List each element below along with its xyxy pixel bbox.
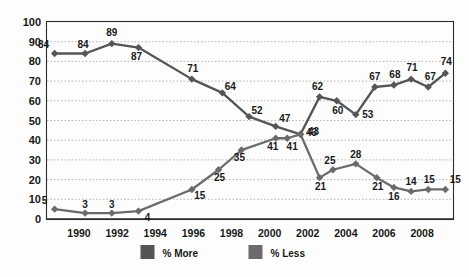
- x-tick-label-2006: 2006: [372, 227, 396, 239]
- x-tick-label-2002: 2002: [296, 227, 320, 239]
- legend-label-less: % Less: [271, 248, 306, 259]
- y-tick-label-100: 100: [23, 16, 41, 28]
- y-tick-label-10: 10: [29, 193, 41, 205]
- data-point-label: 14: [406, 176, 418, 187]
- legend-label-more: % More: [163, 248, 199, 259]
- data-point-label: 47: [279, 113, 291, 124]
- data-point-label: 60: [332, 105, 344, 116]
- data-point-label: 25: [214, 172, 226, 183]
- y-tick-label-50: 50: [29, 115, 41, 127]
- data-point-label: 62: [312, 81, 324, 92]
- data-point-label: 53: [362, 109, 374, 120]
- y-tick-label-20: 20: [29, 174, 41, 186]
- data-point-label: 41: [287, 141, 299, 152]
- data-point-label: 25: [324, 155, 336, 166]
- x-tick-label-2000: 2000: [258, 227, 282, 239]
- data-point-label: 28: [350, 149, 362, 160]
- data-point-label: 21: [372, 181, 384, 192]
- data-point-label: 35: [234, 152, 246, 163]
- data-point-label: 68: [389, 69, 401, 80]
- data-point-label: 89: [106, 27, 118, 38]
- y-tick-label-40: 40: [29, 134, 41, 146]
- y-tick-label-80: 80: [29, 55, 41, 67]
- y-tick-label-30: 30: [29, 154, 41, 166]
- data-point-label: 71: [407, 62, 419, 73]
- data-point-label: 84: [78, 39, 90, 50]
- data-point-label: 15: [450, 174, 462, 185]
- x-tick-label-2004: 2004: [334, 227, 358, 239]
- data-point-label: 41: [267, 141, 279, 152]
- x-tick-label-1990: 1990: [67, 227, 91, 239]
- data-point-label: 4: [145, 212, 151, 223]
- data-point-label: 15: [194, 190, 206, 201]
- data-point-label: 74: [441, 56, 453, 67]
- data-point-label: 15: [424, 174, 436, 185]
- data-point-label: 84: [38, 39, 50, 50]
- legend-swatch-more: [141, 245, 155, 259]
- x-tick-label-1992: 1992: [105, 227, 129, 239]
- y-tick-label-0: 0: [35, 213, 41, 225]
- data-point-label: 16: [388, 191, 400, 202]
- legend-swatch-less: [249, 245, 263, 259]
- x-tick-label-1996: 1996: [182, 227, 206, 239]
- data-point-label: 3: [109, 199, 115, 210]
- x-tick-label-2008: 2008: [410, 227, 434, 239]
- data-point-label: 43: [308, 126, 320, 137]
- data-point-label: 87: [131, 51, 143, 62]
- data-point-label: 67: [425, 71, 437, 82]
- data-point-label: 71: [187, 63, 199, 74]
- x-tick-label-1998: 1998: [220, 227, 244, 239]
- y-tick-label-70: 70: [29, 75, 41, 87]
- data-point-label: 52: [251, 105, 263, 116]
- data-point-label: 21: [315, 181, 327, 192]
- y-tick-label-60: 60: [29, 95, 41, 107]
- line-chart-figure: 0102030405060708090100 19901992199419961…: [0, 0, 469, 277]
- data-point-label: 64: [225, 81, 237, 92]
- x-tick-label-1994: 1994: [144, 227, 168, 239]
- data-point-label: 5: [42, 195, 48, 206]
- data-point-label: 3: [82, 199, 88, 210]
- chart-canvas: 0102030405060708090100 19901992199419961…: [0, 0, 469, 277]
- data-point-label: 67: [369, 71, 381, 82]
